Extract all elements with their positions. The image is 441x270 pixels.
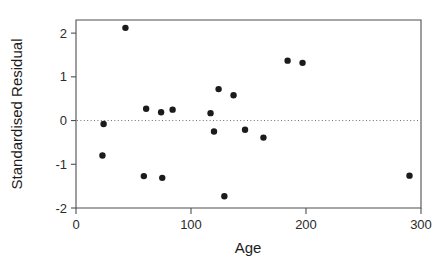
- x-tick-label: 100: [180, 217, 202, 232]
- data-point: [406, 172, 412, 178]
- y-tick-label: -1: [55, 157, 67, 172]
- data-point: [230, 92, 236, 98]
- y-axis-ticks: -2-1012: [55, 26, 76, 216]
- y-tick-label: 2: [60, 26, 67, 41]
- x-tick-label: 200: [295, 217, 317, 232]
- data-point: [242, 127, 248, 133]
- axis-box: [76, 20, 421, 208]
- data-point: [100, 121, 106, 127]
- data-point: [260, 134, 266, 140]
- x-axis-ticks: 0100200300: [72, 208, 431, 232]
- data-point: [159, 175, 165, 181]
- y-tick-label: 1: [60, 69, 67, 84]
- data-point: [221, 193, 227, 199]
- data-point: [215, 86, 221, 92]
- plot-frame: [76, 20, 421, 208]
- data-point: [299, 60, 305, 66]
- y-axis-title: Standardised Residual: [8, 39, 25, 190]
- data-point: [99, 152, 105, 158]
- data-point: [207, 110, 213, 116]
- data-point: [284, 57, 290, 63]
- plot-canvas: -2-1012 0100200300 Age Standardised Resi…: [0, 0, 441, 270]
- data-point: [211, 128, 217, 134]
- data-point: [158, 109, 164, 115]
- x-tick-label: 300: [410, 217, 432, 232]
- x-axis-title: Age: [235, 239, 262, 256]
- y-tick-label: 0: [60, 113, 67, 128]
- data-points: [99, 25, 412, 200]
- data-point: [122, 25, 128, 31]
- data-point: [169, 106, 175, 112]
- data-point: [143, 106, 149, 112]
- data-point: [141, 173, 147, 179]
- x-tick-label: 0: [72, 217, 79, 232]
- scatter-plot-figure: -2-1012 0100200300 Age Standardised Resi…: [0, 0, 441, 270]
- y-tick-label: -2: [55, 201, 67, 216]
